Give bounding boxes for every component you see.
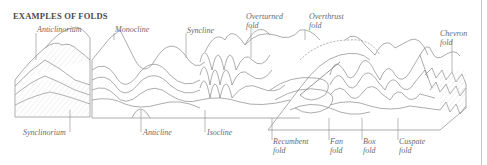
label-box-fold: Box fold [363,137,375,155]
chevron-block [425,68,466,130]
label-synclinorium: Synclinorium [23,128,66,137]
label-isocline: Isocline [207,128,232,137]
label-anticlinorium: Anticlinorium [37,25,81,34]
label-monocline: Monocline [115,25,149,34]
label-recumbent-fold: Recumbent fold [273,137,309,155]
label-cuspate-fold: Cuspate fold [399,137,425,155]
anticlinorium-block [15,27,90,117]
label-overthrust-fold: Overthrust fold [309,12,344,30]
right-border-rule [481,0,482,165]
label-fan-fold: Fan fold [330,137,343,155]
label-overturned-fold: Overturned fold [246,12,283,30]
label-chevron-fold: Chevron fold [440,29,467,47]
overthrust-recumbent-block [268,40,440,130]
label-anticline: Anticline [143,128,172,137]
label-syncline: Syncline [187,26,214,35]
